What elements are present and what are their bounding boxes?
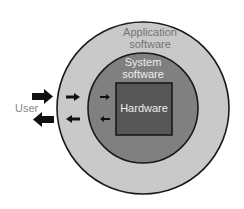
system-software-label-line1: System	[125, 56, 162, 68]
hardware-label: Hardware	[120, 102, 168, 114]
application-software-label-line1: Application	[123, 26, 177, 38]
application-software-label-line2: software	[129, 38, 171, 50]
system-software-label-line2: software	[122, 68, 164, 80]
arrow-left-large-icon	[33, 112, 54, 127]
layered-software-diagram: Application software System software Har…	[0, 0, 244, 209]
user-label: User	[15, 102, 39, 114]
